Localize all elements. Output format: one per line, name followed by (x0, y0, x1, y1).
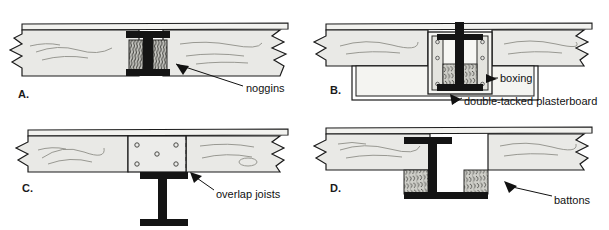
panel-a-floorboard (22, 23, 288, 30)
panel-a-joist-left (10, 30, 139, 76)
panel-a-noggin-right (153, 40, 167, 72)
panel-a-noggin-left (129, 40, 143, 72)
panel-d-letter: D. (330, 182, 341, 194)
panel-d-joist-right (488, 134, 588, 170)
label-noggins: noggins (246, 82, 285, 94)
figure-root: noggins A. (0, 0, 609, 230)
panel-b-letter: B. (330, 84, 341, 96)
panel-b-joist-right (492, 30, 588, 66)
construction-detail-figure: noggins A. (0, 0, 609, 230)
panel-c-joist-right (186, 136, 284, 172)
panel-b-packing-right (462, 64, 477, 86)
label-battons: battons (554, 194, 591, 206)
panel-a-letter: A. (18, 88, 29, 100)
panel-c-joist-left (16, 136, 128, 172)
panel-d-floorboard (326, 127, 592, 134)
panel-d-batton-right (464, 170, 488, 194)
panel-c-letter: C. (22, 182, 33, 194)
panel-d-batton-left (404, 170, 428, 194)
label-overlap-joists: overlap joists (216, 188, 281, 200)
panel-b: boxing double-tacked plasterboard B. (314, 22, 597, 107)
label-boxing: boxing (500, 72, 532, 84)
label-plasterboard: double-tacked plasterboard (464, 95, 597, 107)
panel-c-floorboard (28, 129, 288, 136)
